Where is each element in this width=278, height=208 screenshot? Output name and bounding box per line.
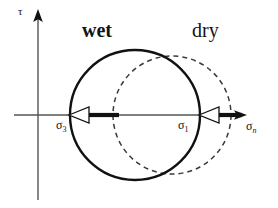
tau-axis-label: τ (18, 6, 22, 17)
sigma1-arrowhead-icon (199, 107, 219, 123)
sigma-3-label: σ3 (56, 119, 66, 134)
sigma3-shift-arrow (69, 107, 119, 123)
sigma-1-label: σ1 (178, 119, 188, 134)
mohr-circle-figure: wet dry τ σn σ3 σ1 (0, 0, 278, 208)
sigma-1-subscript: 1 (184, 125, 188, 134)
dry-circle-label: dry (192, 20, 219, 40)
sigma3-arrowhead-icon (69, 107, 89, 123)
wet-circle-label: wet (82, 20, 112, 40)
sigma1-shift-arrow (199, 107, 242, 123)
sigma-n-subscript: n (252, 126, 256, 135)
mohr-diagram-canvas (0, 0, 278, 208)
shear-stress-axis (33, 9, 43, 200)
sigma-3-subscript: 3 (62, 125, 66, 134)
sigma-n-axis-label: σn (246, 120, 256, 135)
